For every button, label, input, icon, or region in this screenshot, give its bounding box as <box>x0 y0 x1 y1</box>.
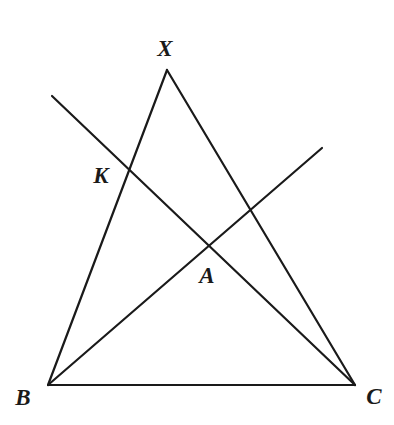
triangle-xbc <box>48 70 355 385</box>
point-label-b: B <box>15 386 30 409</box>
point-label-x: X <box>157 37 172 60</box>
geometry-figure: X K A B C <box>0 0 394 425</box>
segment-side-XC <box>167 70 355 385</box>
point-label-k: K <box>93 164 108 187</box>
point-label-a: A <box>199 264 214 287</box>
segment-ray-through-A <box>48 148 322 385</box>
cevian-lines <box>48 96 355 385</box>
geometry-canvas <box>0 0 394 425</box>
point-label-c: C <box>366 385 381 408</box>
segment-side-XB <box>48 70 167 385</box>
